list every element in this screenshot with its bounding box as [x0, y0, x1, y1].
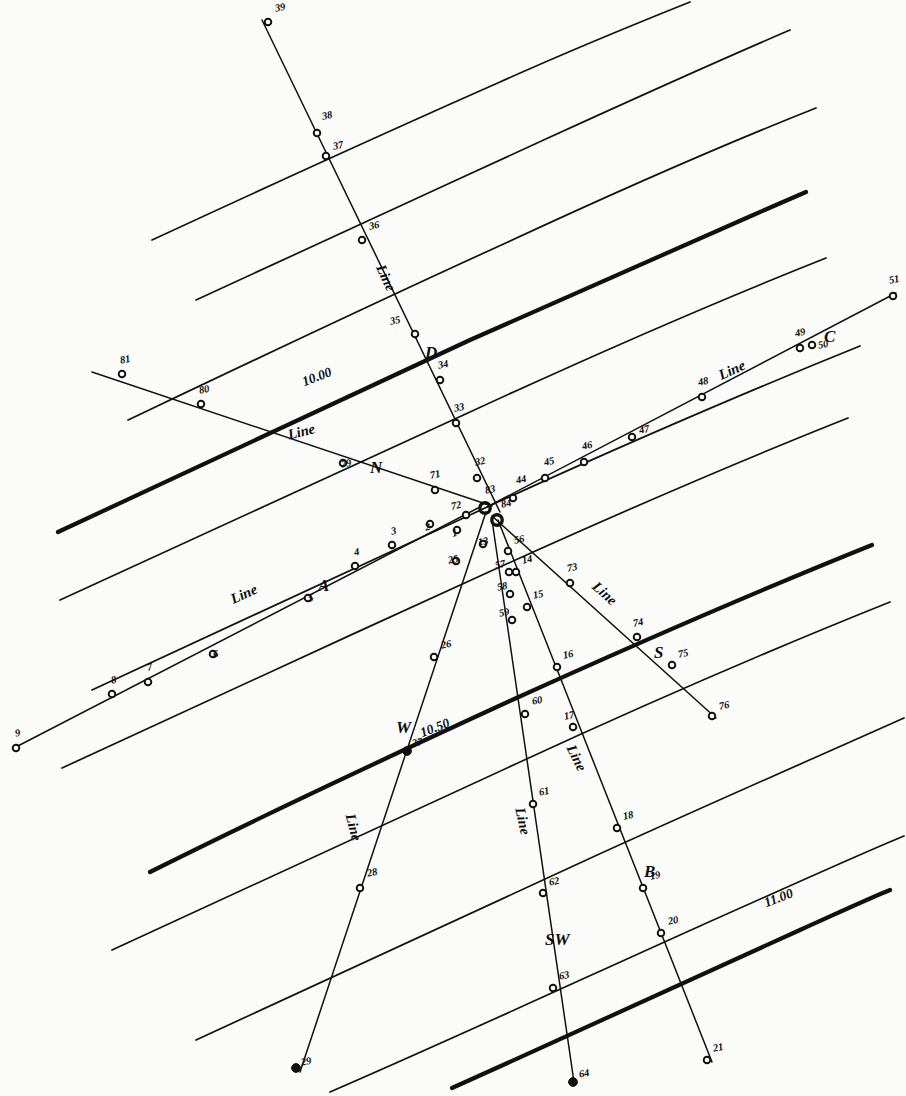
- station-marker-72: [463, 512, 470, 519]
- station-marker-32: [474, 475, 481, 482]
- station-label-34: 34: [437, 358, 449, 371]
- station-marker-64: [569, 1078, 578, 1087]
- station-marker-3: [389, 542, 396, 549]
- station-marker-71: [432, 487, 439, 494]
- station-marker-39: [265, 19, 272, 26]
- station-marker-14: [513, 569, 520, 576]
- station-marker-48: [699, 394, 706, 401]
- station-label-48: 48: [697, 375, 709, 388]
- traverse-line-C: [487, 293, 896, 507]
- station-marker-17: [570, 724, 577, 731]
- station-label-21: 21: [712, 1041, 724, 1054]
- station-marker-58: [507, 591, 514, 598]
- station-label-36: 36: [368, 219, 380, 232]
- station-label-51: 51: [888, 273, 900, 286]
- station-marker-27: [403, 747, 412, 756]
- traverse-lines-group: [14, 20, 896, 1082]
- station-marker-29: [292, 1064, 301, 1073]
- station-label-83: 83: [484, 483, 496, 496]
- station-label-72: 72: [450, 499, 462, 512]
- station-label-61: 61: [538, 785, 550, 798]
- station-label-27: 27: [411, 736, 423, 749]
- survey-plan-sheet: 10.0010.5011.00LineALineNLineDLineCLineS…: [0, 0, 906, 1096]
- station-label-75: 75: [677, 647, 689, 660]
- station-marker-76: [709, 713, 716, 720]
- station-marker-73: [567, 580, 574, 587]
- station-marker-21: [704, 1057, 711, 1064]
- station-label-63: 63: [558, 969, 570, 982]
- station-marker-50: [809, 342, 816, 349]
- station-label-35: 35: [389, 314, 401, 327]
- line-name-label-A: A: [318, 576, 329, 596]
- line-name-label-SW: SW: [545, 930, 570, 950]
- station-label-74: 74: [632, 616, 644, 629]
- station-label-14: 14: [521, 553, 533, 566]
- station-label-38: 38: [321, 109, 333, 122]
- station-marker-75: [669, 662, 676, 669]
- station-marker-7: [145, 679, 152, 686]
- station-marker-15: [524, 604, 531, 611]
- contour-line: [60, 258, 826, 600]
- station-label-25: 25: [447, 553, 459, 566]
- station-label-46: 46: [581, 439, 593, 452]
- station-label-18: 18: [622, 809, 634, 822]
- station-marker-46: [581, 459, 588, 466]
- station-marker-80: [198, 401, 205, 408]
- contour-line: [330, 836, 904, 1092]
- traverse-line-W: [300, 512, 486, 1072]
- station-marker-37: [323, 153, 330, 160]
- station-label-71: 71: [429, 468, 441, 481]
- station-marker-81: [119, 371, 126, 378]
- station-label-60: 60: [531, 694, 543, 707]
- station-label-45: 45: [543, 455, 555, 468]
- station-marker-47: [629, 434, 636, 441]
- station-marker-56: [505, 548, 512, 555]
- station-label-81: 81: [119, 353, 131, 366]
- station-label-84: 84: [500, 497, 512, 510]
- line-name-label-S: S: [654, 643, 663, 663]
- survey-plan-drawing: [0, 0, 906, 1096]
- station-label-47: 47: [638, 423, 650, 436]
- station-marker-38: [314, 130, 321, 137]
- station-label-76: 76: [718, 699, 730, 712]
- station-label-62: 62: [548, 875, 560, 888]
- station-label-16: 16: [562, 648, 574, 661]
- station-marker-36: [359, 237, 366, 244]
- station-marker-59: [509, 617, 516, 624]
- station-marker-49: [797, 345, 804, 352]
- station-marker-4: [352, 563, 359, 570]
- station-label-17: 17: [563, 709, 575, 722]
- station-marker-26: [431, 654, 438, 661]
- station-label-19: 19: [649, 869, 661, 882]
- station-marker-57: [506, 569, 513, 576]
- station-label-58: 58: [496, 580, 508, 593]
- station-label-29: 29: [300, 1055, 312, 1068]
- traverse-line-S: [492, 516, 716, 718]
- station-marker-35: [412, 331, 419, 338]
- station-marker-62: [540, 890, 547, 897]
- station-marker-8: [109, 691, 116, 698]
- station-marker-9: [13, 745, 20, 752]
- station-label-32: 32: [474, 455, 486, 468]
- station-marker-33: [453, 420, 460, 427]
- station-label-15: 15: [532, 588, 544, 601]
- station-marker-34: [437, 377, 444, 384]
- station-label-57: 57: [494, 558, 506, 571]
- station-label-73: 73: [566, 561, 578, 574]
- station-label-49: 49: [794, 326, 806, 339]
- station-marker-63: [550, 985, 557, 992]
- station-label-13: 13: [477, 535, 489, 548]
- contour-line: [92, 346, 860, 690]
- station-marker-19: [640, 885, 647, 892]
- line-name-label-D: D: [425, 343, 437, 363]
- contour-line: [62, 418, 848, 768]
- station-label-56: 56: [513, 533, 525, 546]
- station-label-80: 80: [198, 383, 210, 396]
- station-marker-51: [890, 293, 897, 300]
- contour-line: [128, 108, 816, 420]
- line-name-label-N: N: [370, 458, 382, 478]
- traverse-line-A: [14, 508, 478, 748]
- station-label-79: 79: [340, 457, 352, 470]
- station-marker-45: [542, 475, 549, 482]
- station-marker-16: [554, 664, 561, 671]
